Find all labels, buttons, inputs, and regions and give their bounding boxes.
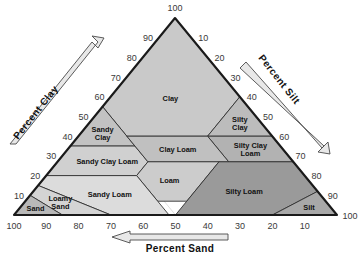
silt-tick-70: 70: [295, 151, 305, 161]
clay-tick-30: 30: [46, 151, 56, 161]
sand-tick-10: 10: [300, 221, 310, 231]
silt-tick-80: 80: [312, 171, 322, 181]
clay-tick-70: 70: [111, 73, 121, 83]
clay-axis-title: Percent Clay: [11, 83, 60, 141]
triangle-canvas: ClaySiltyClaySilty ClayLoamSandyClaySand…: [0, 0, 360, 253]
silt-axis-title: Percent Silt: [256, 52, 302, 106]
silt-tick-90: 90: [328, 191, 338, 201]
sand-tick-40: 40: [203, 221, 213, 231]
sand-tick-50: 50: [170, 221, 180, 231]
sand-axis-arrow: [112, 231, 228, 243]
silt-tick-60: 60: [279, 132, 289, 142]
region-label-silt: Silt: [303, 203, 315, 212]
apex-tick-100: 100: [167, 3, 182, 13]
region-label-sand: Sand: [26, 204, 45, 213]
silt-tick-20: 20: [214, 53, 224, 63]
sand-tick-80: 80: [74, 221, 84, 231]
region-label-clay: Clay: [163, 94, 180, 103]
bottom-right-tick-100: 100: [342, 211, 357, 221]
sand-tick-30: 30: [235, 221, 245, 231]
sand-tick-20: 20: [267, 221, 277, 231]
sand-tick-90: 90: [41, 221, 51, 231]
region-label-silty-loam: Silty Loam: [225, 187, 263, 196]
bottom-left-tick-100: 100: [6, 221, 21, 231]
clay-tick-10: 10: [14, 191, 24, 201]
clay-tick-60: 60: [95, 92, 105, 102]
region-label-sandy-clay-loam: Sandy Clay Loam: [76, 157, 138, 166]
silt-tick-40: 40: [247, 92, 257, 102]
sand-axis-title: Percent Sand: [146, 243, 215, 253]
clay-tick-80: 80: [127, 53, 137, 63]
silt-tick-50: 50: [263, 112, 273, 122]
region-clay: [103, 18, 240, 136]
sand-tick-60: 60: [138, 221, 148, 231]
silt-tick-10: 10: [198, 33, 208, 43]
region-label-silty-clay: SiltyClay: [232, 115, 249, 132]
clay-tick-20: 20: [30, 171, 40, 181]
region-label-sandy-loam: Sandy Loam: [88, 190, 132, 199]
sand-tick-70: 70: [106, 221, 116, 231]
clay-tick-90: 90: [143, 33, 153, 43]
clay-tick-40: 40: [62, 132, 72, 142]
region-label-loam: Loam: [160, 176, 180, 185]
silt-tick-30: 30: [231, 73, 241, 83]
clay-tick-50: 50: [78, 112, 88, 122]
region-label-clay-loam: Clay Loam: [159, 145, 197, 154]
soil-texture-triangle-diagram: ClaySiltyClaySilty ClayLoamSandyClaySand…: [0, 0, 360, 253]
region-polygons: [14, 18, 337, 215]
